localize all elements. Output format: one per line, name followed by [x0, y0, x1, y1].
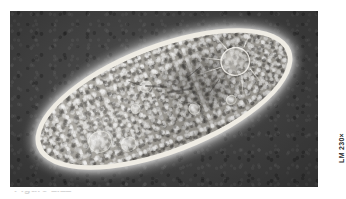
caption-text: Figure 1.11: [14, 191, 214, 194]
micrograph-plate: [10, 11, 318, 187]
caption-fragment: Figure 1.11: [14, 191, 214, 199]
magnification-label: LM 230×: [337, 133, 346, 163]
